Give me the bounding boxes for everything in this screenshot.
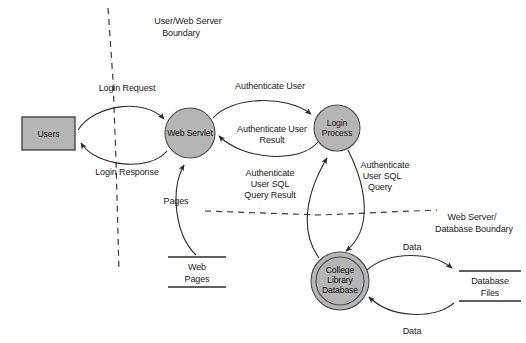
- authenticate-user-sql-query-label-line1: Authenticate: [361, 160, 410, 170]
- login-response-arrow: [81, 143, 167, 164]
- data-store-database-files[interactable]: Database Files: [459, 271, 521, 301]
- pages-label: Pages: [163, 196, 189, 206]
- node-web-servlet[interactable]: Web Servlet: [165, 108, 215, 158]
- flow-login-request: Login Request: [78, 83, 164, 130]
- node-college-library-database[interactable]: College Library Database: [311, 252, 369, 310]
- login-process-label-line2: Process: [322, 128, 352, 138]
- college-library-database-label-line1: College: [326, 265, 355, 275]
- flow-login-response: Login Response: [81, 143, 167, 177]
- login-process-label-line1: Login: [327, 118, 348, 128]
- authenticate-user-result-label-line2: Result: [260, 135, 286, 145]
- flow-authenticate-user-result: Authenticate User Result: [219, 124, 318, 156]
- database-files-label-line1: Database: [471, 276, 509, 286]
- data-out-arrow: [367, 256, 452, 271]
- users-label: Users: [38, 129, 60, 139]
- user-web-server-boundary-label-line2: Boundary: [162, 28, 200, 38]
- web-servlet-label: Web Servlet: [167, 128, 213, 138]
- authenticate-user-sql-query-result-label-line3: Query Result: [244, 190, 296, 200]
- data-in-arrow: [369, 297, 454, 314]
- authenticate-user-sql-query-result-label-line1: Authenticate: [246, 168, 295, 178]
- authenticate-user-result-label-line1: Authenticate User: [237, 124, 307, 134]
- authenticate-user-sql-query-label-line3: Query: [368, 182, 393, 192]
- flow-authenticate-user: Authenticate User: [213, 81, 311, 118]
- flow-authenticate-user-sql-query-result: Authenticate User SQL Query Result: [244, 158, 327, 258]
- authenticate-user-sql-query-label-line2: User SQL: [363, 171, 402, 181]
- database-files-label-line2: Files: [481, 288, 500, 298]
- college-library-database-label-line2: Library: [327, 275, 353, 285]
- college-library-database-label-line3: Database: [322, 285, 358, 295]
- web-server-database-boundary-label-line2: Database Boundary: [435, 224, 513, 234]
- flow-pages: Pages: [163, 165, 196, 255]
- flow-data-out: Data: [367, 242, 452, 270]
- node-users[interactable]: Users: [22, 117, 75, 150]
- boundary-web-server-database: Web Server/ Database Boundary: [205, 210, 514, 234]
- login-response-label: Login Response: [95, 167, 159, 177]
- login-request-label: Login Request: [99, 83, 156, 93]
- data-store-web-pages[interactable]: Web Pages: [168, 257, 226, 287]
- flow-authenticate-user-sql-query: Authenticate User SQL Query: [346, 150, 410, 251]
- authenticate-user-label: Authenticate User: [235, 81, 305, 91]
- web-pages-label-line2: Pages: [184, 274, 210, 284]
- user-web-server-boundary-label-line1: User/Web Server: [154, 16, 221, 26]
- data-in-label: Data: [403, 326, 422, 336]
- data-out-label: Data: [403, 242, 422, 252]
- user-web-server-boundary-line: [108, 8, 119, 272]
- authenticate-user-sql-query-result-label-line2: User SQL: [251, 179, 290, 189]
- flow-data-in: Data: [369, 297, 454, 336]
- authenticate-user-sql-query-result-arrow: [307, 158, 327, 258]
- web-server-database-boundary-label-line1: Web Server/: [448, 212, 497, 222]
- web-server-database-boundary-line: [205, 210, 437, 215]
- login-request-arrow: [78, 106, 164, 130]
- node-login-process[interactable]: Login Process: [314, 105, 360, 151]
- pages-arrow: [176, 165, 196, 255]
- diagram-canvas: User/Web Server Boundary Web Server/ Dat…: [0, 0, 526, 343]
- authenticate-user-arrow: [213, 101, 311, 118]
- web-pages-label-line1: Web: [188, 262, 206, 272]
- data-flow-diagram: User/Web Server Boundary Web Server/ Dat…: [0, 0, 526, 343]
